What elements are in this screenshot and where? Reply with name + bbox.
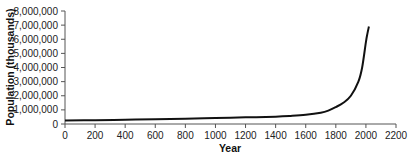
x-tick-label: 1800 — [325, 130, 348, 141]
y-tick-label: 6,000,000 — [14, 34, 59, 45]
y-tick-label: 8,000,000 — [14, 6, 59, 17]
x-tick-label: 1200 — [234, 130, 257, 141]
x-tick-label: 2200 — [385, 130, 408, 141]
x-tick-label: 800 — [177, 130, 194, 141]
x-tick-label: 2000 — [355, 130, 378, 141]
y-tick-label: 7,000,000 — [14, 20, 59, 31]
x-tick-label: 1400 — [265, 130, 288, 141]
y-tick-label: 0 — [52, 119, 58, 130]
x-tick-label: 600 — [147, 130, 164, 141]
x-tick-label: 1000 — [204, 130, 227, 141]
population-line-chart: 01,000,0002,000,0003,000,0004,000,0005,0… — [0, 0, 412, 162]
y-tick-label: 3,000,000 — [14, 76, 59, 87]
y-tick-label: 4,000,000 — [14, 62, 59, 73]
y-tick-label: 2,000,000 — [14, 90, 59, 101]
y-axis-title: Population (thousands) — [4, 8, 16, 125]
population-curve — [65, 27, 369, 121]
x-tick-label: 200 — [87, 130, 104, 141]
x-axis-title: Year — [219, 142, 241, 154]
y-tick-label: 1,000,000 — [14, 104, 59, 115]
x-tick-label: 0 — [62, 130, 68, 141]
x-axis-ticks: 0200400600800100012001400160018002000220… — [62, 124, 407, 141]
x-tick-label: 1600 — [295, 130, 318, 141]
y-tick-label: 5,000,000 — [14, 48, 59, 59]
y-axis-ticks: 01,000,0002,000,0003,000,0004,000,0005,0… — [14, 6, 66, 130]
x-tick-label: 400 — [117, 130, 134, 141]
